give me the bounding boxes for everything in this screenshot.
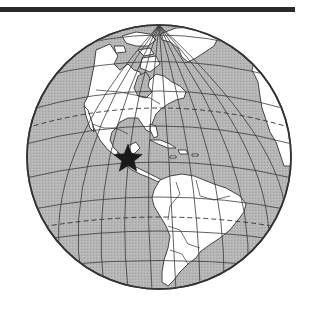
globe-map (0, 0, 313, 317)
